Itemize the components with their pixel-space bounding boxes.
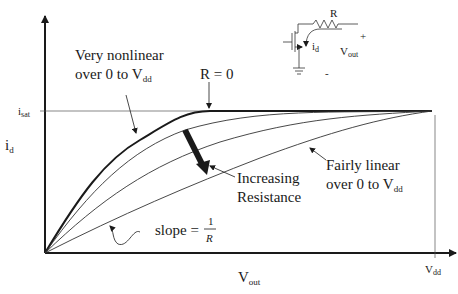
slope-pointer xyxy=(110,226,140,245)
resistor-icon xyxy=(313,20,358,28)
increasing-label-line1: Increasing xyxy=(237,170,300,186)
nonlinear-label-line1: Very nonlinear xyxy=(75,47,164,63)
x-axis-label: Vout xyxy=(238,269,261,287)
circuit-resistor-label: R xyxy=(330,7,338,19)
increasing-label-line2: Resistance xyxy=(237,189,301,205)
nonlinear-pointer xyxy=(126,95,136,133)
circuit-plus: + xyxy=(360,30,366,42)
slope-denominator: R xyxy=(205,232,213,244)
y-axis-label: id xyxy=(5,137,14,155)
slope-numerator: 1 xyxy=(208,215,214,227)
linear-label-line2: over 0 to Vdd xyxy=(326,176,403,194)
vdd-tick-label: Vdd xyxy=(425,263,441,277)
isat-tick-label: isat xyxy=(18,105,31,119)
slope-label: slope = xyxy=(155,222,199,238)
nonlinear-label-line2: over 0 to Vdd xyxy=(75,66,152,84)
circuit-current-label: id xyxy=(312,40,319,54)
linear-label-line1: Fairly linear xyxy=(326,157,400,173)
id-vout-diagram: id isat Vout Vdd Very nonlinear over 0 t… xyxy=(0,0,458,294)
circuit-voltage-label: Vout xyxy=(340,45,359,59)
circuit-minus: - xyxy=(325,67,329,79)
linear-pointer xyxy=(310,148,326,160)
increasing-pointer xyxy=(210,166,235,177)
increasing-resistance-arrow xyxy=(185,130,203,166)
r-zero-label: R = 0 xyxy=(200,66,233,82)
